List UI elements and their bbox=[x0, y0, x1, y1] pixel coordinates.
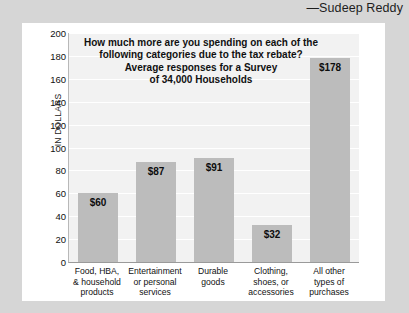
y-axis-tick-label: 140 bbox=[50, 96, 66, 107]
y-axis-tick-label: 200 bbox=[50, 28, 66, 39]
y-axis-tick-label: 100 bbox=[50, 142, 66, 153]
x-axis-category-label: Clothing,shoes, oraccessories bbox=[242, 266, 300, 298]
x-axis-category-label: Entertainmentor personalservices bbox=[126, 266, 184, 298]
bar-value-label: $87 bbox=[136, 166, 176, 177]
x-axis-category-label-line: Durable bbox=[184, 266, 242, 277]
bar-value-label: $32 bbox=[252, 229, 292, 240]
y-axis-tick-label: 40 bbox=[55, 211, 66, 222]
x-axis-category-label-line: & household bbox=[68, 277, 126, 288]
bar-value-label: $60 bbox=[78, 197, 118, 208]
y-axis-tick-label: 160 bbox=[50, 73, 66, 84]
x-axis-category-label-line: Food, HBA, bbox=[68, 266, 126, 277]
y-axis-tick-label: 20 bbox=[55, 234, 66, 245]
x-axis-category-label-line: products bbox=[68, 287, 126, 298]
plot-area: How much more are you spending on each o… bbox=[68, 33, 359, 263]
x-axis-category-label-line: goods bbox=[184, 277, 242, 288]
bar[interactable] bbox=[194, 158, 234, 262]
x-axis-category-labels: Food, HBA,& householdproductsEntertainme… bbox=[68, 266, 360, 306]
chart-title-line: How much more are you spending on each o… bbox=[75, 37, 327, 49]
x-axis-category-label-line: All other bbox=[300, 266, 358, 277]
y-axis-tick-label: 0 bbox=[61, 257, 66, 268]
x-axis-category-label-line: or personal bbox=[126, 277, 184, 288]
y-axis-tick-label: 60 bbox=[55, 188, 66, 199]
x-axis-category-label-line: services bbox=[126, 287, 184, 298]
y-axis-tick-labels: 200180160140120100806040200 bbox=[34, 33, 66, 262]
chart-title-line: of 34,000 Households bbox=[75, 74, 327, 86]
x-axis-category-label-line: types of bbox=[300, 277, 358, 288]
attribution-byline: —Sudeep Reddy bbox=[306, 1, 403, 15]
chart-title-line: following categories due to the tax reba… bbox=[75, 49, 327, 61]
chart-title: How much more are you spending on each o… bbox=[75, 37, 327, 87]
x-axis-category-label-line: Clothing, bbox=[242, 266, 300, 277]
y-axis-tick-label: 80 bbox=[55, 165, 66, 176]
y-axis-tick-label: 180 bbox=[50, 50, 66, 61]
y-axis-tick-label: 120 bbox=[50, 119, 66, 130]
x-axis-category-label: All othertypes ofpurchases bbox=[300, 266, 358, 298]
bar[interactable] bbox=[310, 58, 350, 262]
x-axis-category-label: Food, HBA,& householdproducts bbox=[68, 266, 126, 298]
bar-value-label: $91 bbox=[194, 162, 234, 173]
x-axis-category-label-line: accessories bbox=[242, 287, 300, 298]
x-axis-category-label-line: purchases bbox=[300, 287, 358, 298]
x-axis-category-label-line: Entertainment bbox=[126, 266, 184, 277]
chart-card: IN DOLLARS 200180160140120100806040200 H… bbox=[22, 23, 385, 301]
chart-title-line: Average responses for a Survey bbox=[75, 62, 327, 74]
x-axis-category-label-line: shoes, or bbox=[242, 277, 300, 288]
x-axis-category-label: Durablegoods bbox=[184, 266, 242, 287]
